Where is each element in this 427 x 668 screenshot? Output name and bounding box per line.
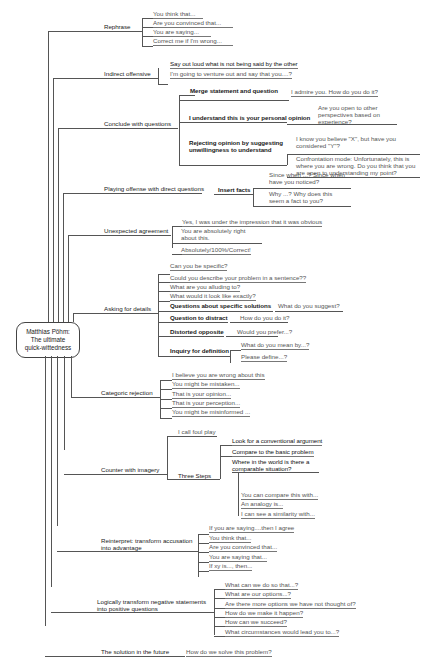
branch-line xyxy=(63,193,202,194)
connector xyxy=(230,350,231,363)
connector xyxy=(142,27,153,28)
leaf: What do you suggest? xyxy=(278,302,340,309)
connector xyxy=(172,226,173,248)
connector xyxy=(287,124,397,125)
connector xyxy=(230,350,241,351)
sub-three-steps: Three Steps xyxy=(178,472,211,479)
branch-rephrase: Rephrase xyxy=(104,23,130,30)
leaf: I believe you are wrong about this xyxy=(172,371,265,380)
leaf: I call foul play xyxy=(178,428,216,435)
connector xyxy=(238,472,239,516)
connector xyxy=(220,445,221,479)
leaf: Where in the world is there a comparable… xyxy=(232,458,317,472)
leaf: Since when ...? Since when have you noti… xyxy=(269,171,359,185)
trunk-line xyxy=(71,356,72,397)
connector xyxy=(214,608,225,609)
connector xyxy=(287,154,288,165)
connector xyxy=(158,68,159,84)
leaf: You are saying that... xyxy=(209,553,267,562)
root-line-1: Matthias Pöhm: xyxy=(25,328,72,336)
trunk-line xyxy=(68,235,69,322)
example: I can see a similarity with... xyxy=(241,510,315,519)
leaf: What are you alluding to? xyxy=(170,283,240,292)
connector xyxy=(198,543,209,544)
root-node: Matthias Pöhm: The ultimate quick-witted… xyxy=(16,322,80,358)
connector xyxy=(158,322,228,323)
leaf: What are our options...? xyxy=(225,590,291,599)
connector xyxy=(142,18,153,19)
leaf: I admire you. How do you do it? xyxy=(291,88,378,97)
leaf: Are you open to other perspectives based… xyxy=(318,104,396,126)
connector xyxy=(214,194,253,195)
sub-rejecting-opinion: Rejecting opinion by suggesting unwillin… xyxy=(189,139,289,153)
sub-inquiry-definition: Inquiry for definition xyxy=(170,347,229,354)
sub-question-to-distract: Question to distract xyxy=(170,314,227,321)
trunk-line xyxy=(45,356,46,626)
leaf: Are you convinced that... xyxy=(153,19,233,28)
connector xyxy=(230,322,288,323)
branch-line xyxy=(45,656,185,657)
connector xyxy=(220,456,232,457)
branch-line xyxy=(73,313,158,314)
connector xyxy=(172,254,182,255)
leaf: What would it look like exactly? xyxy=(170,292,256,301)
branch-line xyxy=(64,474,167,475)
sub-specific-solutions: Questions about specific solutions xyxy=(170,302,271,309)
connector xyxy=(226,336,278,337)
leaf: I know you believe "X", but have you con… xyxy=(296,135,406,149)
leaf: You are saying... xyxy=(153,28,211,37)
connector xyxy=(214,589,225,590)
branch-reinterpret: Reinterpret: transform accusation into a… xyxy=(101,537,201,551)
connector xyxy=(142,36,153,37)
connector xyxy=(158,274,170,275)
connector xyxy=(167,436,168,479)
leaf: Please define...? xyxy=(241,353,287,362)
sub-distorted-opposite: Distorted opposite xyxy=(170,328,224,335)
example: An analogy is... xyxy=(241,500,283,509)
example: You can compare this with... xyxy=(241,491,318,500)
leaf: You think that... xyxy=(209,534,251,543)
trunk-line xyxy=(48,31,49,322)
connector xyxy=(214,617,225,618)
connector xyxy=(172,243,262,244)
connector xyxy=(158,336,224,337)
connector xyxy=(142,46,153,47)
connector xyxy=(158,84,168,85)
branch-line xyxy=(48,31,143,32)
connector xyxy=(198,571,209,572)
leaf: What can we do so that...? xyxy=(225,581,298,590)
leaf: You might be misinformed ... xyxy=(172,408,250,417)
leaf: Absolutely/100%/Correct! xyxy=(181,246,251,255)
branch-asking-for-details: Asking for details xyxy=(104,305,151,312)
leaf: Could you describe your problem in a sen… xyxy=(170,274,306,283)
connector xyxy=(160,380,172,381)
connector xyxy=(179,95,195,96)
branch-line xyxy=(71,397,160,398)
branch-line xyxy=(53,78,158,79)
connector xyxy=(198,562,209,563)
branch-conclude-with-questions: Conclude with questions xyxy=(104,120,171,127)
branch-counter-with-imagery: Counter with imagery xyxy=(101,466,159,473)
leaf: Compare to the basic problem xyxy=(232,448,314,457)
connector xyxy=(214,589,215,635)
connector xyxy=(160,418,172,419)
sub-personal-opinion: I understand this is your personal opini… xyxy=(189,114,310,121)
leaf: How do we solve this problem? xyxy=(186,648,272,657)
leaf: Are there more options we have not thoug… xyxy=(225,600,356,609)
leaf: That is your opinion... xyxy=(172,390,231,399)
connector xyxy=(220,445,232,446)
root-line-2: The ultimate xyxy=(25,336,72,344)
connector xyxy=(253,188,351,189)
leaf: How can we succeed? xyxy=(225,618,287,627)
sub-insert-facts: Insert facts xyxy=(218,186,250,193)
connector xyxy=(142,18,143,46)
connector xyxy=(179,95,180,165)
leaf: If xy is..., then... xyxy=(209,562,252,571)
connector xyxy=(253,206,351,207)
connector xyxy=(158,282,170,283)
leaf: You are absolutely right about this. xyxy=(181,227,261,241)
connector xyxy=(214,636,225,637)
connector xyxy=(158,301,170,302)
connector xyxy=(232,472,319,473)
connector xyxy=(160,399,172,400)
